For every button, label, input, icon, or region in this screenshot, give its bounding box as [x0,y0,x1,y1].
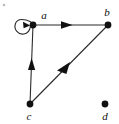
edge-a-to-b [33,21,108,29]
edge-c-to-a [28,25,35,104]
edge-c-to-a-arrowhead-icon [28,58,35,70]
directed-graph-figure: a b c d [0,0,119,124]
edge-a-to-a-self-loop [15,20,31,35]
node-b-label: b [104,6,110,18]
node-c-label: c [27,110,32,122]
self-loop-arrowhead-icon [23,22,30,28]
edge-b-to-c-arrowhead-icon [57,62,70,74]
node-a-label: a [41,9,47,21]
node-b-vertex[interactable] [105,22,112,29]
self-loop-arc [15,20,31,35]
scan-speck-artifact [3,4,6,7]
edge-b-to-c [30,25,108,104]
node-d-vertex[interactable] [102,101,109,108]
graph-canvas: a b c d [0,0,119,124]
node-d-label: d [102,110,108,122]
node-c-vertex[interactable] [27,101,34,108]
edge-a-to-b-arrowhead-icon [61,21,73,29]
node-a-vertex[interactable] [30,22,37,29]
